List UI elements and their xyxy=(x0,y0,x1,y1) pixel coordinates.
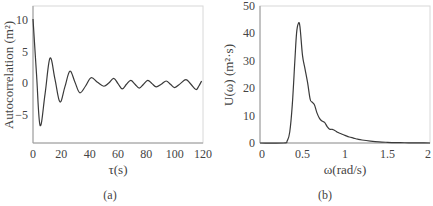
x-tick-label: 100 xyxy=(166,147,184,161)
y-tick-label: 10 xyxy=(16,13,28,27)
y-tick-label: 5 xyxy=(22,45,28,59)
x-ticks-b: 0 0.5 1 1.5 2 xyxy=(259,147,431,161)
x-tick-label: 1 xyxy=(342,147,348,161)
y-tick-label: −5 xyxy=(15,108,28,122)
panel-a-autocorrelation: 10 5 0 −5 0 20 40 60 80 100 120 τ(s) Aut… xyxy=(1,6,212,202)
y-axis-label-a: Autocorrelation (m²) xyxy=(1,21,16,129)
y-tick-label: 30 xyxy=(243,54,255,68)
x-axis-label-a: τ(s) xyxy=(109,162,128,177)
x-tick-label: 0 xyxy=(259,147,265,161)
panel-b-spectrum: 50 40 30 20 10 0 0 0.5 1 1.5 2 ω(rad/s) … xyxy=(221,0,431,202)
x-tick-label: 0.5 xyxy=(295,147,310,161)
x-tick-label: 60 xyxy=(112,147,124,161)
y-ticks-a: 10 5 0 −5 xyxy=(15,13,28,122)
y-tick-label: 10 xyxy=(243,109,255,123)
figure: 10 5 0 −5 0 20 40 60 80 100 120 τ(s) Aut… xyxy=(0,0,433,206)
y-ticks-b: 50 40 30 20 10 0 xyxy=(243,0,255,150)
x-tick-label: 120 xyxy=(194,147,212,161)
panel-label-a: (a) xyxy=(103,188,116,202)
plot-frame-a xyxy=(33,6,203,143)
y-tick-label: 50 xyxy=(243,0,255,13)
y-axis-label-b: U(ω) (m²·s) xyxy=(221,44,236,106)
x-tick-label: 0 xyxy=(30,147,36,161)
y-tick-label: 40 xyxy=(243,26,255,40)
y-tick-label: 0 xyxy=(22,76,28,90)
spectrum-curve xyxy=(260,23,430,144)
panel-label-b: (b) xyxy=(318,188,332,202)
plot-frame-b xyxy=(260,6,430,143)
y-tick-label: 20 xyxy=(243,81,255,95)
x-ticks-a: 0 20 40 60 80 100 120 xyxy=(30,147,212,161)
x-tick-label: 80 xyxy=(140,147,152,161)
x-tick-label: 2 xyxy=(425,147,431,161)
x-tick-label: 40 xyxy=(84,147,96,161)
x-tick-label: 20 xyxy=(55,147,67,161)
x-axis-label-b: ω(rad/s) xyxy=(324,162,367,177)
x-tick-label: 1.5 xyxy=(380,147,395,161)
autocorrelation-curve xyxy=(33,19,202,126)
y-tick-label: 0 xyxy=(249,136,255,150)
